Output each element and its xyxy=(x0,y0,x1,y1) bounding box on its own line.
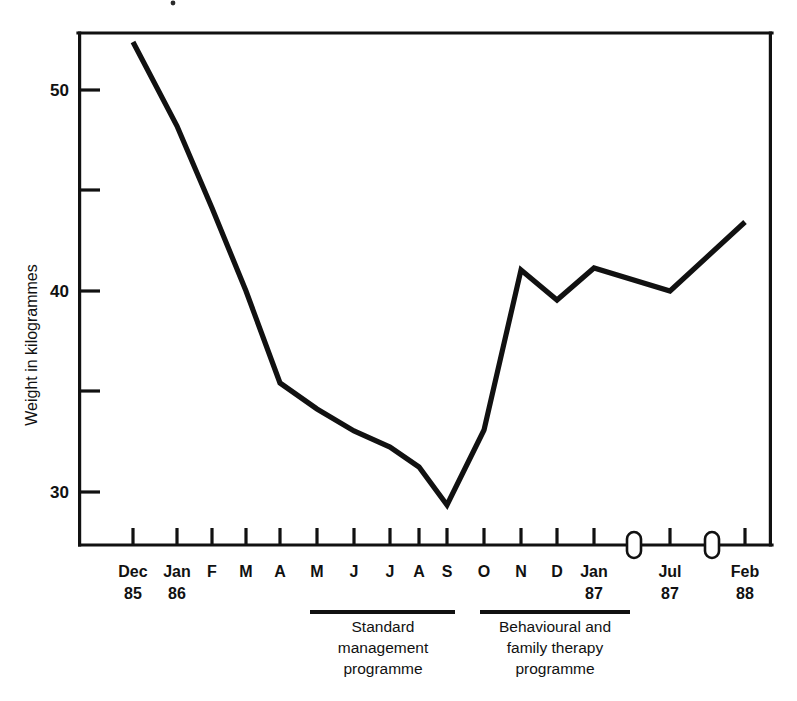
x-label-feb-88: Feb xyxy=(731,563,760,580)
x-label-jan-87: Jan xyxy=(580,563,608,580)
x-label-jun: J xyxy=(350,563,359,580)
standard-line1: Standard xyxy=(352,618,415,635)
scan-speck xyxy=(171,1,176,6)
y-tick-label-50: 50 xyxy=(50,81,69,100)
standard-line3: programme xyxy=(343,660,422,677)
x-label-dec: Dec xyxy=(118,563,147,580)
y-axis-ticks xyxy=(80,90,100,492)
chart-page: 50 40 30 Weight in kilogrammes xyxy=(0,0,797,701)
x-label-sep: S xyxy=(442,563,453,580)
x-label-may: M xyxy=(310,563,323,580)
axis-break-pill-2 xyxy=(705,532,719,558)
y-tick-label-30: 30 xyxy=(50,483,69,502)
behavioural-line1: Behavioural and xyxy=(499,618,611,635)
x-label-aug: A xyxy=(413,563,425,580)
behavioural-line2: family therapy xyxy=(507,639,604,656)
x-label-87b: 87 xyxy=(661,585,679,602)
axis-break-pill-1 xyxy=(627,532,641,558)
y-tick-label-40: 40 xyxy=(50,282,69,301)
x-label-jan-86: Jan xyxy=(163,563,191,580)
x-label-86: 86 xyxy=(168,585,186,602)
standard-programme-annotation: Standard management programme xyxy=(338,618,429,677)
weight-over-time-line-chart: 50 40 30 Weight in kilogrammes xyxy=(0,0,797,701)
x-label-oct: O xyxy=(478,563,490,580)
x-label-85: 85 xyxy=(124,585,142,602)
x-label-nov: N xyxy=(515,563,527,580)
y-axis-title: Weight in kilogrammes xyxy=(23,264,40,426)
x-label-feb: F xyxy=(207,563,217,580)
behavioural-line3: programme xyxy=(515,660,594,677)
weight-data-line xyxy=(133,42,745,505)
x-label-apr: A xyxy=(274,563,286,580)
x-axis-tick-labels: Dec 85 Jan 86 F M A M J J A S O N D Jan … xyxy=(118,563,759,602)
x-label-mar: M xyxy=(239,563,252,580)
x-label-jul-86: J xyxy=(386,563,395,580)
x-label-dec-86: D xyxy=(551,563,563,580)
x-label-jul-87: Jul xyxy=(658,563,681,580)
x-label-88: 88 xyxy=(736,585,754,602)
x-axis-ticks xyxy=(133,528,745,545)
standard-line2: management xyxy=(338,639,429,656)
x-label-87a: 87 xyxy=(585,585,603,602)
behavioural-programme-annotation: Behavioural and family therapy programme xyxy=(499,618,611,677)
